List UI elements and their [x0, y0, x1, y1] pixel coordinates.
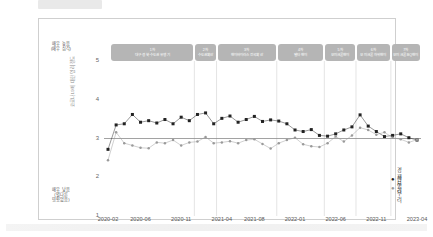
chart-legend: ●경제우려●감염우려 — [391, 175, 405, 193]
data-point — [221, 141, 224, 144]
data-point — [383, 131, 386, 134]
data-point — [131, 113, 134, 116]
legend-item-감염우려[interactable]: ●감염우려 — [391, 184, 405, 193]
wave-band-name: 오미크론 하위변이 — [360, 53, 386, 57]
data-point — [163, 118, 166, 121]
wave-band-name: 대구·경북·수도권 유행기 — [135, 53, 170, 57]
data-point — [343, 140, 346, 143]
data-point — [342, 128, 345, 131]
data-point — [212, 142, 215, 145]
data-point — [237, 142, 240, 145]
data-point — [383, 135, 386, 138]
data-point — [245, 118, 248, 121]
y-axis-bottom-note: 매우 낮음 (별다른 영향없음) — [44, 187, 78, 203]
wave-band-name: 델타변이 — [294, 53, 306, 57]
data-point — [123, 122, 126, 125]
x-tick-2020-11: 2020-11 — [161, 216, 201, 222]
legend-marker-icon: ● — [391, 184, 395, 193]
data-point — [302, 130, 305, 133]
data-point — [115, 131, 118, 134]
data-point — [172, 122, 175, 125]
data-point — [147, 147, 150, 150]
data-point — [253, 115, 256, 118]
data-point — [294, 128, 297, 131]
data-point — [196, 140, 199, 143]
data-point — [286, 139, 289, 142]
x-tick-2022-01: 2022-01 — [275, 216, 315, 222]
data-point — [318, 134, 321, 137]
data-point — [350, 125, 353, 128]
data-point — [310, 145, 313, 148]
data-point — [228, 115, 231, 118]
plot-area — [104, 61, 421, 216]
data-point — [408, 141, 411, 144]
data-point — [359, 126, 362, 128]
data-point — [318, 146, 321, 149]
x-tick-2022-06: 2022-06 — [316, 216, 356, 222]
wave-band-5: 5차오미크론변이 — [325, 44, 355, 61]
page-bottom-text-band — [6, 224, 427, 231]
y-axis-title: 코로나19에 대한 염려 정도 — [69, 37, 75, 107]
wave-band-2: 2차수도권확산 — [195, 44, 215, 61]
wave-band-4: 4차델타변이 — [278, 44, 324, 61]
data-point — [407, 136, 410, 139]
x-tick-2020-06: 2020-06 — [121, 216, 161, 222]
data-point — [204, 136, 207, 139]
data-point — [172, 139, 175, 142]
data-point — [399, 138, 402, 141]
data-point — [164, 142, 167, 145]
data-point — [261, 120, 264, 123]
data-point — [180, 116, 183, 119]
wave-band-7: 7차오미크론 BQ변이 — [392, 44, 420, 61]
data-point — [188, 119, 191, 122]
data-point — [351, 134, 354, 137]
data-point — [123, 142, 126, 145]
y-tick-3: 3 — [87, 135, 99, 141]
y-tick-2: 2 — [87, 173, 99, 179]
wave-band-name: 변이바이러스 전국확산 — [231, 53, 263, 57]
data-point — [416, 138, 419, 141]
data-point — [229, 140, 232, 143]
data-point — [277, 120, 280, 123]
data-point — [269, 147, 272, 150]
data-point — [180, 144, 183, 147]
data-point — [278, 142, 281, 145]
data-point — [147, 119, 150, 122]
data-point — [253, 138, 256, 141]
wave-band-1: 1차대구·경북·수도권 유행기 — [111, 44, 193, 61]
data-point — [294, 136, 297, 139]
data-point — [107, 148, 110, 151]
x-tick-2022-11: 2022-11 — [356, 216, 396, 222]
data-point — [359, 113, 362, 116]
data-point — [237, 121, 240, 124]
data-point — [107, 159, 110, 162]
data-point — [310, 128, 313, 131]
data-point — [188, 141, 191, 144]
data-point — [391, 136, 394, 139]
y-axis-bottom-note-line3: 영향없음) — [44, 197, 78, 202]
data-point — [391, 134, 394, 137]
data-point — [375, 133, 378, 136]
data-point — [367, 129, 370, 132]
data-point — [139, 147, 142, 150]
data-point — [399, 132, 402, 135]
wave-band-name: 오미크론 BQ변이 — [393, 53, 418, 57]
wave-band-3: 3차변이바이러스 전국확산 — [218, 44, 276, 61]
data-point — [156, 141, 159, 144]
legend-label: 감염우려 — [397, 175, 405, 203]
data-point — [131, 144, 134, 147]
data-point — [196, 113, 199, 116]
data-point — [155, 122, 158, 125]
data-point — [261, 143, 264, 146]
series-감염우려 — [107, 126, 419, 161]
data-point — [375, 130, 378, 133]
y-tick-5: 5 — [87, 57, 99, 63]
wave-band-name: 오미크론변이 — [331, 53, 350, 57]
data-point — [326, 142, 329, 145]
data-point — [334, 132, 337, 135]
data-point — [302, 143, 305, 146]
page-top-text-band — [38, 0, 102, 9]
data-point — [245, 139, 248, 142]
data-point — [326, 135, 329, 138]
data-point — [115, 123, 118, 126]
